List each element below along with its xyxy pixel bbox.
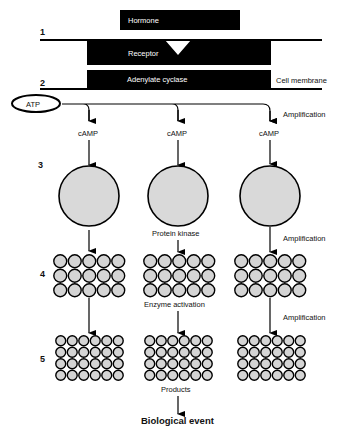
enzyme-cell xyxy=(249,370,259,380)
receptor-label: Receptor xyxy=(128,49,159,58)
enzyme-cell xyxy=(235,255,248,268)
enzyme-cell xyxy=(179,347,189,357)
enzyme-cell xyxy=(156,370,166,380)
enzyme-cell xyxy=(54,255,67,268)
enzyme-cell xyxy=(156,359,166,369)
enzyme-cell xyxy=(264,269,277,282)
atp-branch-line xyxy=(62,104,270,121)
enzyme-cell xyxy=(238,347,248,357)
enzyme-cell xyxy=(113,336,123,346)
enzyme-cell xyxy=(90,336,100,346)
camp-label-3: cAMP xyxy=(259,129,279,138)
enzyme-cell xyxy=(68,269,81,282)
enzyme-grid-level4-1 xyxy=(54,255,125,297)
protein-kinase-label: Protein kinase xyxy=(152,229,200,238)
enzyme-cell xyxy=(56,347,66,357)
atp-label: ATP xyxy=(26,100,40,109)
enzyme-cell xyxy=(158,284,171,297)
step-number-2: 2 xyxy=(40,78,45,88)
enzyme-cell xyxy=(54,269,67,282)
enzyme-cell xyxy=(173,255,186,268)
step-number-5: 5 xyxy=(40,354,45,364)
enzyme-cell xyxy=(56,370,66,380)
enzyme-cell xyxy=(272,347,282,357)
enzyme-cell xyxy=(249,284,262,297)
enzyme-cell xyxy=(261,347,271,357)
enzyme-cell xyxy=(144,269,157,282)
enzyme-cell xyxy=(144,284,157,297)
adenylate-cyclase-block: Adenylate cyclase xyxy=(87,70,271,89)
enzyme-cell xyxy=(278,284,291,297)
enzyme-cell xyxy=(187,284,200,297)
enzyme-cell xyxy=(145,347,155,357)
enzyme-cell xyxy=(68,284,81,297)
step-number-1: 1 xyxy=(40,27,45,37)
hormone-label: Hormone xyxy=(128,16,159,25)
amplification-label-2: Amplification xyxy=(283,234,326,243)
enzyme-grid-level4-3 xyxy=(235,255,306,297)
enzyme-cell xyxy=(102,370,112,380)
enzyme-cell xyxy=(202,269,215,282)
enzyme-cell xyxy=(113,359,123,369)
enzyme-cell xyxy=(79,370,89,380)
camp-signaling-diagram: 1 2 3 4 5 Hormone Receptor Adenylate cyc… xyxy=(0,0,342,434)
enzyme-cell xyxy=(264,255,277,268)
enzyme-cell xyxy=(112,255,125,268)
enzyme-cell xyxy=(173,284,186,297)
enzyme-cell xyxy=(113,347,123,357)
enzyme-cell xyxy=(202,359,212,369)
enzyme-cell xyxy=(54,284,67,297)
enzyme-cell xyxy=(56,336,66,346)
enzyme-cell xyxy=(202,347,212,357)
protein-kinase-circle-2 xyxy=(148,166,208,226)
enzyme-cell xyxy=(156,347,166,357)
enzyme-cell xyxy=(112,269,125,282)
amplification-label-3: Amplification xyxy=(283,313,326,322)
enzyme-cell xyxy=(168,359,178,369)
enzyme-cell xyxy=(168,347,178,357)
enzyme-cell xyxy=(293,284,306,297)
enzyme-cell xyxy=(83,255,96,268)
enzyme-cell xyxy=(90,347,100,357)
enzyme-cell xyxy=(79,336,89,346)
enzyme-cell xyxy=(249,347,259,357)
product-grid-level5-3 xyxy=(238,336,305,380)
enzyme-cell xyxy=(272,370,282,380)
enzyme-cell xyxy=(284,359,294,369)
enzyme-cell xyxy=(144,255,157,268)
enzyme-cell xyxy=(238,359,248,369)
step-number-4: 4 xyxy=(40,269,45,279)
enzyme-cell xyxy=(295,347,305,357)
enzyme-cell xyxy=(68,255,81,268)
product-grid-level5-2 xyxy=(145,336,212,380)
enzyme-cell xyxy=(295,336,305,346)
enzyme-cell xyxy=(238,336,248,346)
enzyme-cell xyxy=(168,336,178,346)
protein-kinase-circle-1 xyxy=(59,166,119,226)
protein-kinase-circle-3 xyxy=(240,166,300,226)
enzyme-cell xyxy=(191,336,201,346)
enzyme-cell xyxy=(158,269,171,282)
enzyme-cell xyxy=(187,255,200,268)
enzyme-activation-label: Enzyme activation xyxy=(144,300,205,309)
enzyme-cell xyxy=(79,347,89,357)
receptor-block: Receptor xyxy=(87,40,271,65)
biological-event-label: Biological event xyxy=(141,415,215,426)
enzyme-cell xyxy=(179,359,189,369)
enzyme-cell xyxy=(179,370,189,380)
enzyme-cell xyxy=(79,359,89,369)
enzyme-cell xyxy=(278,255,291,268)
enzyme-cell xyxy=(113,370,123,380)
enzyme-cell xyxy=(261,359,271,369)
enzyme-cell xyxy=(156,336,166,346)
enzyme-cell xyxy=(187,269,200,282)
enzyme-cell xyxy=(264,284,277,297)
enzyme-cell xyxy=(97,269,110,282)
enzyme-cell xyxy=(102,347,112,357)
enzyme-cell xyxy=(102,359,112,369)
enzyme-cell xyxy=(102,336,112,346)
product-grid-level5-1 xyxy=(56,336,123,380)
enzyme-cell xyxy=(295,370,305,380)
enzyme-cell xyxy=(249,269,262,282)
enzyme-cell xyxy=(249,336,259,346)
